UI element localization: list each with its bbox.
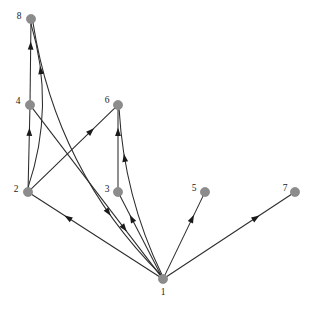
edges-layer bbox=[28, 23, 291, 276]
graph-node-8[interactable] bbox=[26, 14, 35, 23]
graph-edge bbox=[33, 109, 160, 276]
graph-node-label-5: 5 bbox=[192, 183, 197, 193]
graph-node-label-8: 8 bbox=[17, 11, 22, 21]
edge-arrowhead-icon bbox=[188, 215, 194, 224]
graph-node-label-3: 3 bbox=[105, 184, 110, 194]
nodes-layer bbox=[23, 14, 299, 283]
arrowheads-layer bbox=[26, 41, 259, 231]
graph-edge bbox=[30, 24, 31, 101]
graph-svg: 12345678 bbox=[0, 0, 312, 312]
edge-arrowhead-icon bbox=[251, 215, 259, 222]
graph-node-2[interactable] bbox=[23, 187, 32, 196]
graph-node-label-6: 6 bbox=[105, 95, 110, 105]
edge-arrowhead-icon bbox=[130, 215, 136, 224]
graph-node-6[interactable] bbox=[113, 100, 122, 109]
graph-node-4[interactable] bbox=[25, 100, 34, 109]
edge-arrowhead-icon bbox=[122, 154, 128, 163]
graph-node-5[interactable] bbox=[200, 187, 209, 196]
graph-node-1[interactable] bbox=[158, 274, 167, 283]
edge-arrowhead-icon bbox=[26, 128, 32, 136]
graph-node-label-7: 7 bbox=[283, 183, 288, 193]
edge-arrowhead-icon bbox=[28, 41, 34, 49]
graph-edge bbox=[167, 195, 291, 277]
edge-arrowhead-icon bbox=[64, 215, 72, 222]
graph-canvas: 12345678 bbox=[0, 0, 312, 312]
graph-node-7[interactable] bbox=[290, 187, 299, 196]
edge-arrowhead-icon bbox=[119, 223, 126, 231]
graph-node-3[interactable] bbox=[113, 187, 122, 196]
graph-node-label-2: 2 bbox=[14, 184, 19, 194]
graph-edge bbox=[28, 110, 30, 188]
graph-node-label-1: 1 bbox=[161, 287, 166, 297]
graph-edge bbox=[31, 108, 114, 189]
graph-edge bbox=[165, 196, 203, 275]
edge-arrowhead-icon bbox=[115, 128, 121, 136]
graph-node-label-4: 4 bbox=[16, 96, 21, 106]
